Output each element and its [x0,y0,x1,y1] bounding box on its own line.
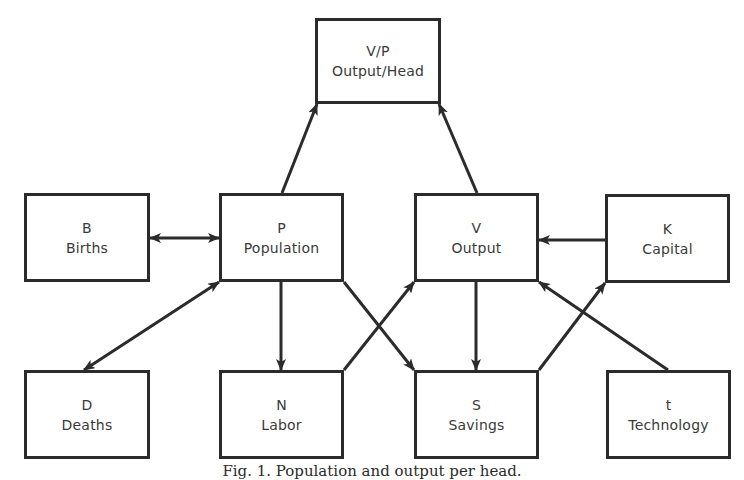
arrow-d-to-p [84,282,219,370]
node-label: Savings [448,415,504,435]
node-symbol: D [82,395,93,415]
node-symbol: B [82,218,92,238]
node-symbol: S [472,395,481,415]
node-label: Deaths [62,415,113,435]
node-label: Output [452,238,502,258]
node-technology: t Technology [606,370,731,459]
arrow-t-to-v [539,282,668,370]
node-deaths: D Deaths [24,370,150,459]
node-label: Technology [628,415,708,435]
node-symbol: K [663,219,672,239]
node-label: Output/Head [332,61,424,81]
node-symbol: N [276,395,287,415]
node-labor: N Labor [219,370,344,459]
figure-caption: Fig. 1. Population and output per head. [0,462,744,480]
arrow-p-to-vp [282,104,317,193]
node-symbol: t [666,395,672,415]
node-label: Population [244,238,320,258]
node-symbol: V [472,218,482,238]
node-label: Labor [261,415,302,435]
node-population: P Population [219,193,344,282]
node-symbol: V/P [366,41,389,61]
node-savings: S Savings [414,370,539,459]
node-capital: K Capital [605,194,730,283]
node-output: V Output [414,193,539,282]
node-output-per-head: V/P Output/Head [315,18,441,104]
node-births: B Births [24,193,150,282]
arrow-s-to-k [539,283,605,370]
node-label: Births [66,238,108,258]
node-label: Capital [642,239,693,259]
arrow-v-to-vp [439,104,477,193]
node-symbol: P [277,218,286,238]
